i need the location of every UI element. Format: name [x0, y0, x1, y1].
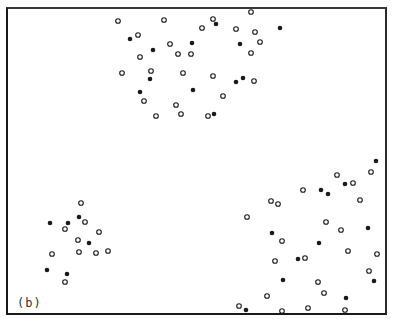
open-point	[252, 79, 257, 84]
filled-point	[128, 37, 133, 42]
open-point	[237, 304, 242, 309]
open-point	[234, 27, 239, 32]
filled-point	[212, 112, 217, 117]
open-point	[258, 40, 263, 45]
filled-point	[238, 42, 243, 47]
filled-point	[48, 221, 53, 226]
open-point	[245, 215, 250, 220]
open-point	[265, 294, 270, 299]
open-point	[249, 51, 254, 56]
open-point	[138, 55, 143, 60]
filled-point	[214, 22, 219, 27]
filled-point	[151, 48, 156, 53]
filled-point	[270, 231, 275, 236]
filled-point	[343, 182, 348, 187]
open-point	[316, 280, 321, 285]
filled-point	[234, 80, 239, 85]
open-point	[367, 269, 372, 274]
open-point	[339, 228, 344, 233]
filled-point	[244, 308, 249, 313]
open-point	[324, 220, 329, 225]
open-point	[106, 249, 111, 254]
open-point	[221, 94, 226, 99]
series-open	[50, 10, 380, 314]
filled-point	[77, 215, 82, 220]
open-point	[303, 256, 308, 261]
panel-label: (b)	[17, 296, 42, 310]
open-point	[94, 251, 99, 256]
open-point	[189, 52, 194, 57]
filled-point	[278, 26, 283, 31]
open-point	[346, 249, 351, 254]
open-point	[97, 230, 102, 235]
open-point	[375, 252, 380, 257]
open-point	[179, 112, 184, 117]
filled-point	[190, 41, 195, 46]
open-point	[50, 252, 55, 257]
open-point	[280, 309, 285, 314]
open-point	[249, 10, 254, 15]
open-point	[306, 306, 311, 311]
open-point	[280, 239, 285, 244]
filled-point	[366, 226, 371, 231]
open-point	[162, 18, 167, 23]
filled-point	[66, 221, 71, 226]
open-point	[211, 74, 216, 79]
open-point	[77, 250, 82, 255]
filled-point	[191, 88, 196, 93]
open-point	[181, 71, 186, 76]
open-point	[142, 99, 147, 104]
open-point	[211, 17, 216, 22]
open-point	[174, 103, 179, 108]
filled-point	[372, 279, 377, 284]
filled-point	[87, 241, 92, 246]
series-filled	[45, 22, 379, 313]
filled-point	[296, 257, 301, 262]
scatter-plot	[0, 0, 395, 319]
open-point	[116, 19, 121, 24]
open-point	[76, 238, 81, 243]
filled-point	[65, 272, 70, 277]
filled-point	[45, 268, 50, 273]
filled-point	[344, 296, 349, 301]
open-point	[168, 42, 173, 47]
open-point	[120, 71, 125, 76]
open-point	[149, 69, 154, 74]
open-point	[269, 199, 274, 204]
open-point	[335, 173, 340, 178]
open-point	[79, 201, 84, 206]
open-point	[200, 26, 205, 31]
filled-point	[138, 90, 143, 95]
open-point	[63, 227, 68, 232]
open-point	[83, 220, 88, 225]
open-point	[253, 30, 258, 35]
open-point	[154, 114, 159, 119]
open-point	[369, 170, 374, 175]
open-point	[273, 259, 278, 264]
open-point	[301, 188, 306, 193]
open-point	[276, 202, 281, 207]
filled-point	[319, 188, 324, 193]
filled-point	[241, 76, 246, 81]
open-point	[176, 52, 181, 57]
open-point	[63, 280, 68, 285]
open-point	[322, 291, 327, 296]
open-point	[136, 33, 141, 38]
filled-point	[281, 278, 286, 283]
open-point	[358, 198, 363, 203]
filled-point	[148, 77, 153, 82]
filled-point	[317, 241, 322, 246]
open-point	[351, 181, 356, 186]
open-point	[206, 114, 211, 119]
filled-point	[326, 192, 331, 197]
filled-point	[374, 159, 379, 164]
open-point	[343, 308, 348, 313]
